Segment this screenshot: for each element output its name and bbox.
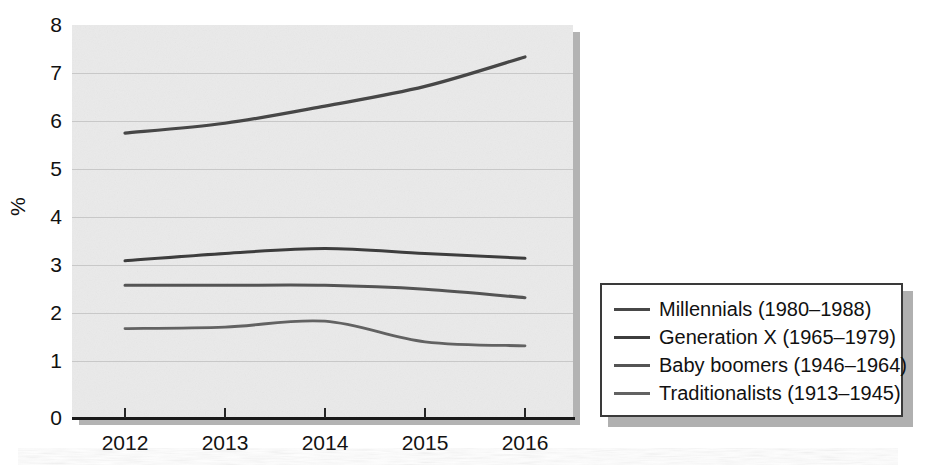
- legend-swatch-icon: [614, 308, 650, 311]
- legend-label: Baby boomers (1946–1964): [659, 355, 907, 375]
- x-tick-2016: [524, 408, 526, 418]
- legend-swatch-icon: [614, 336, 650, 339]
- y-tick-label-8: 8: [6, 14, 62, 35]
- legend-item-millennials[interactable]: Millennials (1980–1988): [614, 295, 901, 323]
- y-tick-label-5: 5: [6, 158, 62, 179]
- y-tick-label-3: 3: [6, 254, 62, 275]
- series-line: [125, 249, 525, 261]
- legend-swatch-icon: [614, 392, 650, 395]
- x-tick-label-2014: 2014: [275, 432, 375, 453]
- x-tick-label-2012: 2012: [75, 432, 175, 453]
- legend-label: Generation X (1965–1979): [659, 327, 896, 347]
- series-line: [125, 285, 525, 298]
- x-tick-label-2016: 2016: [475, 432, 575, 453]
- line-chart-figure: 8 7 6 5 4 3 2 1 0 % 2012 2013 2014 2015 …: [0, 0, 936, 472]
- chart-legend: Millennials (1980–1988) Generation X (19…: [600, 283, 903, 417]
- legend-item-generation-x[interactable]: Generation X (1965–1979): [614, 323, 901, 351]
- legend-item-baby-boomers[interactable]: Baby boomers (1946–1964): [614, 351, 901, 379]
- y-axis-label: %: [6, 197, 30, 216]
- y-tick-label-2: 2: [6, 302, 62, 323]
- y-tick-label-6: 6: [6, 110, 62, 131]
- y-tick-label-7: 7: [6, 62, 62, 83]
- legend-item-traditionalists[interactable]: Traditionalists (1913–1945): [614, 379, 901, 407]
- legend-swatch-icon: [614, 364, 650, 367]
- x-tick-label-2015: 2015: [375, 432, 475, 453]
- legend-label: Traditionalists (1913–1945): [659, 383, 901, 403]
- x-tick-label-2013: 2013: [175, 432, 275, 453]
- series-line: [125, 321, 525, 346]
- x-tick-2012: [124, 408, 126, 418]
- x-tick-2014: [324, 408, 326, 418]
- legend-label: Millennials (1980–1988): [659, 299, 871, 319]
- y-tick-label-0: 0: [6, 407, 62, 428]
- series-line: [125, 57, 525, 133]
- x-tick-2013: [224, 408, 226, 418]
- y-tick-label-1: 1: [6, 350, 62, 371]
- x-tick-2015: [424, 408, 426, 418]
